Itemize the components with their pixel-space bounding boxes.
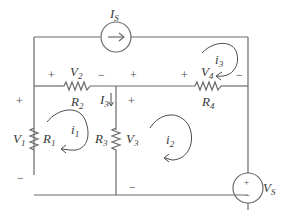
v2-minus: − <box>98 68 105 82</box>
r2-label: R2 <box>70 94 84 111</box>
current-source-label: IS <box>109 6 119 23</box>
v1-minus: − <box>17 171 24 185</box>
vs-minus-sign: − <box>245 190 250 200</box>
resistor-r3-zigzag <box>112 128 120 150</box>
v3-plus: + <box>128 94 135 108</box>
resistor-r4: V4 R4 + + − <box>130 64 243 111</box>
v3-minus: − <box>129 180 136 194</box>
i3-branch-label: I3 <box>99 92 109 109</box>
v4-minus: + <box>181 68 188 82</box>
r3-label: R3 <box>94 131 108 148</box>
r1-label: R1 <box>42 131 55 148</box>
mesh-loop-i2: i2 <box>150 115 192 162</box>
r4-label: R4 <box>201 94 215 111</box>
v3-label: V3 <box>126 131 139 148</box>
v2-label: V2 <box>70 64 83 81</box>
v2-plus: + <box>48 68 55 82</box>
v1-label: V1 <box>13 131 25 148</box>
voltage-source-label: VS <box>263 180 276 197</box>
v4-plus: + <box>130 68 137 82</box>
resistor-r2-zigzag <box>64 82 90 90</box>
vs-plus-sign: + <box>244 177 249 187</box>
current-source: IS <box>101 6 131 52</box>
v4-minus-right: − <box>236 68 243 82</box>
resistor-r2: V2 R2 + − <box>48 64 105 111</box>
i3-mesh-label: i3 <box>215 52 224 69</box>
i1-label: i1 <box>71 122 79 139</box>
loop-arrow-icon <box>150 115 192 160</box>
circuit-diagram: IS + − VS V2 R2 + − V4 R4 + + − V1 R1 + … <box>0 0 291 211</box>
resistor-r4-zigzag <box>195 82 221 90</box>
i2-label: i2 <box>166 132 175 149</box>
branch-current-i3: I3 <box>99 92 114 109</box>
voltage-source: + − VS <box>233 173 276 203</box>
v1-plus: + <box>16 94 23 108</box>
v4-label: V4 <box>201 64 214 81</box>
